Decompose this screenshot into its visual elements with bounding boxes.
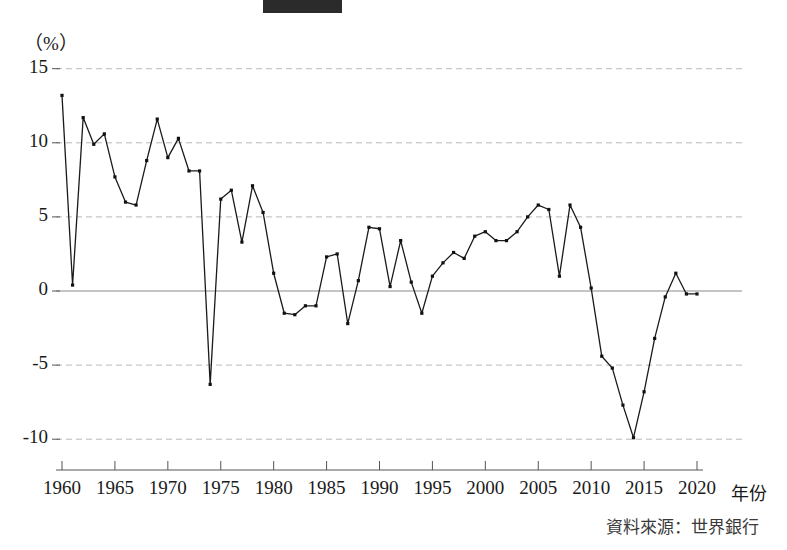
y-axis-tick-label: -10 [2, 426, 48, 448]
data-point-marker [240, 240, 243, 243]
x-axis-tick-label: 1975 [191, 477, 251, 499]
data-point-marker [568, 203, 571, 206]
data-point-marker [621, 404, 624, 407]
y-axis-tick-label: -5 [2, 352, 48, 374]
data-point-marker [177, 137, 180, 140]
data-point-marker [134, 203, 137, 206]
data-point-marker [484, 230, 487, 233]
data-point-marker [251, 184, 254, 187]
data-point-marker [261, 211, 264, 214]
x-axis-tick-label: 2020 [667, 477, 727, 499]
data-point-marker [410, 281, 413, 284]
data-point-marker [103, 132, 106, 135]
data-point-marker [547, 208, 550, 211]
data-point-marker [60, 94, 63, 97]
data-point-marker [304, 304, 307, 307]
data-point-marker [579, 226, 582, 229]
data-point-marker [145, 159, 148, 162]
data-point-marker [156, 117, 159, 120]
data-point-marker [653, 337, 656, 340]
x-axis-tick-label: 1980 [244, 477, 304, 499]
x-axis-name-label: 年份 [731, 479, 767, 505]
data-point-marker [293, 313, 296, 316]
data-point-marker [664, 295, 667, 298]
data-point-marker [399, 239, 402, 242]
data-point-marker [600, 355, 603, 358]
x-axis-tick-label: 2000 [455, 477, 515, 499]
data-point-marker [505, 239, 508, 242]
y-axis-tick-label: 0 [2, 278, 48, 300]
data-point-marker [632, 436, 635, 439]
source-note: 資料來源：世界銀行 [606, 513, 759, 538]
x-axis-tick-label: 2005 [508, 477, 568, 499]
y-axis-tick-label: 10 [2, 130, 48, 152]
data-point-marker [166, 156, 169, 159]
data-point-marker [325, 255, 328, 258]
data-point-marker [219, 198, 222, 201]
data-point-marker [378, 227, 381, 230]
data-point-marker [388, 285, 391, 288]
line-chart-canvas [0, 0, 787, 550]
data-point-marker [336, 252, 339, 255]
data-point-marker [198, 169, 201, 172]
x-axis-tick-label: 1960 [32, 477, 92, 499]
data-point-marker [494, 239, 497, 242]
data-point-marker [463, 257, 466, 260]
data-point-marker [452, 251, 455, 254]
x-axis-tick-label: 1990 [350, 477, 410, 499]
x-axis-tick-label: 1985 [297, 477, 357, 499]
data-point-marker [674, 272, 677, 275]
data-point-marker [441, 261, 444, 264]
x-axis-tick-label: 1965 [85, 477, 145, 499]
data-point-marker [695, 292, 698, 295]
data-point-marker [346, 322, 349, 325]
data-point-marker [558, 275, 561, 278]
y-axis-tick-label: 15 [2, 56, 48, 78]
data-point-marker [367, 226, 370, 229]
x-axis-tick-label: 2015 [614, 477, 674, 499]
x-axis-tick-label: 1970 [138, 477, 198, 499]
data-point-marker [642, 390, 645, 393]
data-point-marker [71, 283, 74, 286]
data-point-marker [515, 230, 518, 233]
data-point-marker [272, 272, 275, 275]
x-axis-line-and-ticks [52, 69, 703, 470]
data-point-markers [60, 94, 698, 440]
data-series-line [62, 95, 697, 437]
data-point-marker [473, 235, 476, 238]
data-point-marker [209, 383, 212, 386]
data-point-marker [187, 169, 190, 172]
chart-page: （%） 151050-5-10 196019651970197519801985… [0, 0, 787, 550]
x-axis-tick-label: 2010 [561, 477, 621, 499]
data-point-marker [431, 275, 434, 278]
data-point-marker [420, 312, 423, 315]
data-point-marker [92, 143, 95, 146]
x-axis-tick-label: 1995 [402, 477, 462, 499]
data-point-marker [82, 116, 85, 119]
data-point-marker [283, 312, 286, 315]
data-point-marker [314, 304, 317, 307]
data-point-marker [526, 215, 529, 218]
data-point-marker [230, 189, 233, 192]
series-polyline [62, 95, 697, 437]
data-point-marker [611, 366, 614, 369]
data-point-marker [113, 175, 116, 178]
data-point-marker [537, 203, 540, 206]
data-point-marker [590, 286, 593, 289]
y-axis-tick-label: 5 [2, 204, 48, 226]
data-point-marker [357, 279, 360, 282]
data-point-marker [124, 200, 127, 203]
data-point-marker [685, 292, 688, 295]
